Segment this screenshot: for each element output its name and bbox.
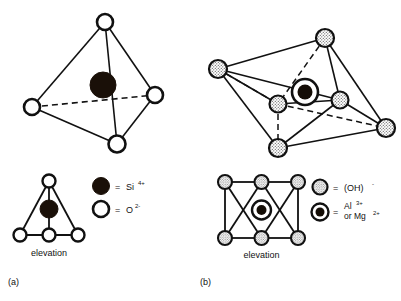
panel-label-a: (a) xyxy=(8,277,19,287)
legend-marker-hydroxyl xyxy=(313,180,328,195)
elevation-a-vertex-oxygen xyxy=(43,175,56,188)
elevation-a-center-silicon xyxy=(40,200,58,218)
elevation-a-vertex-oxygen xyxy=(14,229,27,242)
legend-species-oxygen: O xyxy=(126,205,133,215)
elevation-a-vertex-oxygen xyxy=(72,229,85,242)
octahedron-vertex-hydroxyl xyxy=(209,60,227,78)
elevation-b-vertex-hydroxyl xyxy=(255,175,269,189)
legend-species-aluminium: Al xyxy=(344,201,352,211)
tetrahedron-center-silicon xyxy=(90,72,116,98)
elevation-b-vertex-hydroxyl xyxy=(255,231,269,245)
octahedron-center-aluminium xyxy=(292,79,318,105)
legend-charge-silicon: 4+ xyxy=(138,180,145,186)
legend-charge-oxygen: 2- xyxy=(135,203,140,209)
elevation-a-caption: elevation xyxy=(31,248,67,258)
legend-equals-silicon: = xyxy=(115,182,120,192)
octahedron-vertex-hydroxyl xyxy=(377,119,395,137)
elevation-b-vertex-hydroxyl xyxy=(291,175,305,189)
legend-charge-aluminium: 3+ xyxy=(356,200,363,206)
legend-charge-hydroxyl: - xyxy=(372,181,374,187)
legend-marker-silicon xyxy=(93,178,110,195)
tetrahedron-vertex-oxygen xyxy=(147,87,163,103)
elevation-a-vertex-oxygen xyxy=(43,229,56,242)
tetrahedron-vertex-oxygen xyxy=(109,136,126,153)
elevation-b-center-aluminium xyxy=(252,201,271,220)
legend-marker-oxygen xyxy=(93,201,109,217)
octahedron-vertex-hydroxyl xyxy=(332,92,349,109)
octahedron-vertex-hydroxyl xyxy=(316,29,334,47)
figure-root: elevation elevation xyxy=(0,0,401,301)
legend-species-silicon: Si xyxy=(126,182,134,192)
legend-marker-aluminium xyxy=(312,204,329,221)
elevation-b-vertex-hydroxyl xyxy=(218,175,232,189)
elevation-b-vertex-hydroxyl xyxy=(291,231,305,245)
legend-equals-aluminium: = xyxy=(333,207,338,217)
elevation-b-caption: elevation xyxy=(243,250,279,260)
tetrahedron-vertex-oxygen xyxy=(24,99,40,115)
tetrahedron-vertex-oxygen xyxy=(97,14,113,30)
legend-equals-oxygen: = xyxy=(115,205,120,215)
octahedron-vertex-hydroxyl xyxy=(269,139,287,157)
legend-equals-hydroxyl: = xyxy=(333,183,338,193)
octahedron-vertex-hydroxyl xyxy=(270,96,287,113)
legend-species-magnesium: or Mg xyxy=(344,211,366,221)
panel-label-b: (b) xyxy=(200,277,211,287)
legend-species-hydroxyl: (OH) xyxy=(344,183,364,193)
elevation-b-vertex-hydroxyl xyxy=(218,231,232,245)
figure-svg: elevation elevation xyxy=(0,0,401,301)
legend-charge-magnesium: 2+ xyxy=(373,210,380,216)
